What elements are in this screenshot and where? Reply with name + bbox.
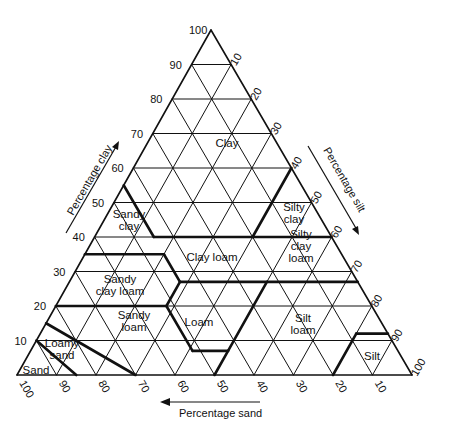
clay-tick-label: 50 [92, 197, 104, 209]
sand-tick-label: 50 [215, 378, 232, 395]
clay-axis-label: Percentage clay [64, 142, 114, 217]
sand-axis: Percentage sand [160, 398, 262, 419]
silt-tick-label: 50 [308, 189, 325, 206]
region-label-silty-clay-loam: Siltyclayloam [289, 228, 314, 264]
sand-tick-label: 10 [373, 378, 390, 395]
silt-tick-label: 90 [388, 327, 405, 344]
clay-tick-label: 40 [73, 231, 85, 243]
region-label-sandy-loam: Sandyloam [118, 309, 151, 333]
class-boundary-line [215, 351, 229, 375]
soil-texture-triangle-figure: 1020304050607080901001020304050607080901… [0, 0, 449, 431]
region-label-silt-loam: Siltloam [291, 312, 316, 336]
silt-tick-label: 70 [348, 258, 365, 275]
silt-tick-label: 100 [408, 356, 428, 378]
silt-tick-label: 30 [268, 120, 285, 137]
region-label-sandy-clay-loam: Sandyclay loam [96, 273, 145, 297]
sand-tick-label: 80 [96, 378, 113, 395]
sand-tick-label: 20 [333, 378, 350, 395]
region-label-silt: Silt [364, 350, 381, 362]
sand-tick-label: 30 [294, 378, 311, 395]
region-label-sand: Sand [23, 364, 50, 376]
region-label-loam: Loam [185, 316, 214, 328]
class-boundary-line [166, 282, 180, 306]
clay-tick-label: 30 [53, 266, 65, 278]
clay-tick-label: 10 [14, 335, 26, 347]
clay-axis-line [66, 145, 117, 233]
sand-tick-label: 90 [57, 378, 74, 395]
sand-axis-label: Percentage sand [179, 407, 262, 419]
sand-tick-label: 40 [254, 378, 271, 395]
class-boundary-line [333, 334, 356, 375]
grid-lines [36, 65, 392, 376]
class-boundary-line [166, 306, 192, 351]
class-boundary-line [164, 254, 180, 282]
silt-tick-label: 10 [227, 51, 244, 68]
arrow-left-icon [160, 398, 170, 406]
sand-tick-label: 60 [175, 378, 192, 395]
clay-tick-label: 60 [111, 162, 123, 174]
region-label-silty-clay: Siltyclay [283, 201, 305, 225]
silt-tick-label: 20 [248, 85, 265, 102]
clay-tick-label: 100 [189, 24, 207, 36]
silt-axis-label: Percentage silt [321, 145, 368, 214]
sand-tick-label: 100 [17, 378, 37, 400]
region-label-clay-loam: Clay loam [186, 251, 237, 263]
silt-axis: Percentage silt [308, 145, 368, 235]
clay-tick-label: 70 [131, 128, 143, 140]
clay-tick-label: 90 [170, 59, 182, 71]
clay-tick-label: 20 [34, 300, 46, 312]
silt-tick-label: 80 [368, 292, 385, 309]
clay-tick-label: 80 [150, 93, 162, 105]
region-label-sandy-clay: Sandyclay [113, 208, 146, 232]
region-label-clay: Clay [215, 137, 238, 149]
ternary-diagram: 1020304050607080901001020304050607080901… [0, 0, 449, 431]
sand-tick-label: 70 [136, 378, 153, 395]
grid-line-sand [192, 65, 373, 376]
region-label-loamy-sand: Loamysand [45, 337, 80, 361]
clay-axis: Percentage clay [64, 141, 119, 233]
arrow-down-icon [352, 226, 359, 235]
